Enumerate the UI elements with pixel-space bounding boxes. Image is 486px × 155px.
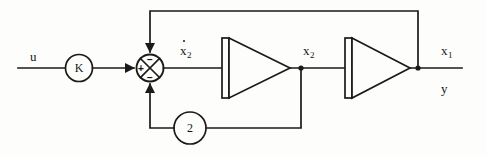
sum-sign-left: + <box>136 64 146 74</box>
block-diagram-canvas: − + − K 2 u x2 x2 x1 y <box>0 0 486 155</box>
x2-dot-subscript: 2 <box>187 50 192 60</box>
sum-sign-bottom: − <box>145 73 155 83</box>
signal-label-x2: x2 <box>303 44 314 60</box>
signal-label-x2-dot: x2 <box>180 44 191 60</box>
gain-k-label: K <box>69 62 89 74</box>
feedback-gain-label: 2 <box>180 122 200 134</box>
x2-dot-base: x <box>180 44 187 57</box>
node-dot-x2 <box>298 65 303 70</box>
x1-base-text: x <box>441 43 448 58</box>
sum-sign-top: − <box>145 55 155 65</box>
integrator-2-bar <box>345 38 352 98</box>
block-diagram-svg <box>0 0 486 155</box>
integrator-1-bar <box>222 38 229 98</box>
integrator-2-triangle <box>352 38 410 98</box>
x2-dot-base-text: x <box>180 43 187 58</box>
input-label-u: u <box>30 50 37 63</box>
node-dot-x1 <box>415 65 420 70</box>
integrator-1-triangle <box>229 38 290 98</box>
x2-subscript: 2 <box>310 50 315 60</box>
x2-base-text: x <box>303 43 310 58</box>
wire-bottom-feedback-left <box>150 84 174 128</box>
output-label-y: y <box>441 82 448 95</box>
x1-subscript: 1 <box>448 50 453 60</box>
signal-label-x1: x1 <box>441 44 452 60</box>
